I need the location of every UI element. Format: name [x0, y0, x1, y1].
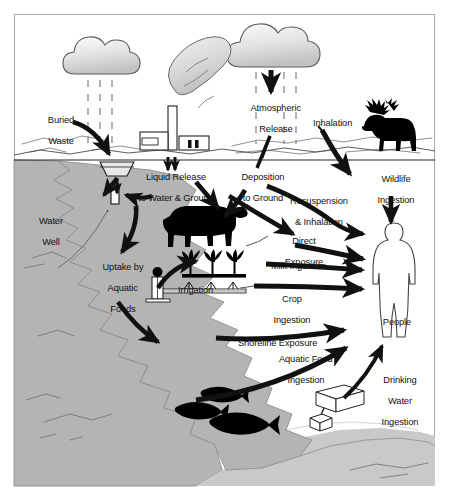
- label-buried-waste: Buried Waste: [28, 104, 84, 157]
- label-aquatic-food-ingestion: Aquatic Food Ingestion: [260, 343, 342, 396]
- label-wildlife-ingestion: Wildlife Ingestion: [358, 163, 424, 216]
- label-people: People: [369, 306, 415, 338]
- label-drinking-water-ingestion: Drinking Water Ingestion: [364, 364, 426, 438]
- diagram-canvas: Buried Waste Atmospheric Release Inhalat…: [0, 0, 449, 500]
- factory: [140, 37, 231, 150]
- cloud-right: [227, 24, 320, 67]
- leader-crop: [240, 286, 254, 288]
- label-uptake-aquatic-foods: Uptake by Aquatic Foods: [84, 251, 152, 325]
- moose: [362, 98, 416, 151]
- smoke-plume: [168, 37, 231, 95]
- label-atmospheric-release: Atmospheric Release: [231, 92, 311, 145]
- cloud-left: [63, 37, 140, 74]
- leader-milk: [246, 236, 268, 246]
- label-milk-ingestion: Milk Ingestion: [261, 250, 347, 282]
- label-water-well: Water Well: [21, 205, 71, 258]
- label-irrigation: Irrigation: [168, 274, 218, 306]
- label-inhalation: Inhalation: [303, 107, 365, 139]
- label-liquid-release: Liquid Release to Water & Ground: [116, 161, 226, 214]
